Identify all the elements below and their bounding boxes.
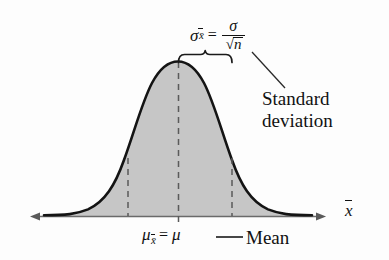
- sigma-subscript-xbar: x̄: [199, 30, 204, 41]
- mu-subscript-xbar: x̄: [151, 235, 156, 246]
- equals-sign: =: [208, 27, 217, 43]
- standard-deviation-formula: σx̄ = σ √n: [190, 18, 245, 52]
- standard-deviation-label-line1: Standard: [262, 88, 333, 110]
- x-bar-symbol: x: [345, 202, 353, 219]
- mean-formula: μx̄=μ: [142, 226, 181, 246]
- x-axis-label: x: [345, 202, 353, 219]
- population-mu-symbol: μ: [172, 225, 181, 244]
- sigma-symbol: σ: [190, 27, 198, 44]
- sigma-over-sqrt-n-fraction: σ √n: [222, 18, 245, 52]
- fraction-numerator: σ: [226, 18, 240, 35]
- mu-symbol: μ: [142, 225, 151, 244]
- standard-deviation-label: Standard deviation: [262, 88, 333, 132]
- mean-equals-sign: =: [159, 226, 168, 243]
- radical-sign: √: [226, 36, 234, 52]
- radicand-n: n: [234, 37, 242, 52]
- standard-deviation-label-line2: deviation: [262, 110, 333, 132]
- square-root: √n: [225, 37, 242, 52]
- standard-deviation-leader-line: [252, 52, 285, 88]
- sigma-brace: [179, 51, 233, 63]
- normal-distribution-figure: σx̄ = σ √n Standard deviation μx̄=μ Mean…: [0, 0, 389, 260]
- fraction-denominator: √n: [222, 36, 245, 52]
- mean-label: Mean: [246, 228, 289, 247]
